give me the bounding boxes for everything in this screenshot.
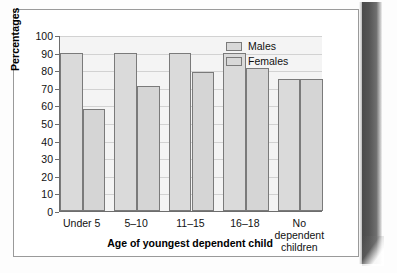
chart-legend: Males Females xyxy=(226,40,312,70)
y-axis-tick-mark xyxy=(55,36,59,37)
y-axis-tick-mark xyxy=(55,194,59,195)
y-axis-tick-label: 40 xyxy=(27,137,53,147)
y-axis-tick-label: 0 xyxy=(27,207,53,217)
y-axis-tick-label: 60 xyxy=(27,101,53,111)
bar-chart: Percentages Age of youngest dependent ch… xyxy=(13,9,359,257)
bar-females-3 xyxy=(246,68,269,211)
legend-label-females: Females xyxy=(248,56,288,67)
y-axis-tick-mark xyxy=(55,142,59,143)
y-axis-tick-label: 10 xyxy=(27,189,53,199)
y-axis-tick-mark xyxy=(55,124,59,125)
legend-item-males: Males xyxy=(226,40,312,53)
page-shadow xyxy=(362,2,382,264)
y-axis-tick-mark xyxy=(55,54,59,55)
x-axis-tick-label: No dependent children xyxy=(267,217,332,253)
bar-females-2 xyxy=(192,72,215,211)
y-axis-tick-label: 30 xyxy=(27,154,53,164)
y-axis-tick-label: 50 xyxy=(27,119,53,129)
y-axis-tick-mark xyxy=(55,71,59,72)
y-axis-tick-label: 100 xyxy=(27,31,53,41)
bar-females-1 xyxy=(137,86,160,211)
bar-males-4 xyxy=(278,79,301,211)
y-axis-tick-label: 90 xyxy=(27,49,53,59)
legend-label-males: Males xyxy=(248,41,276,52)
y-axis-tick-label: 70 xyxy=(27,84,53,94)
legend-swatch-females xyxy=(226,57,242,66)
bar-females-0 xyxy=(83,109,106,211)
gridline xyxy=(60,36,322,37)
y-axis-tick-mark xyxy=(55,106,59,107)
y-axis-tick-label: 80 xyxy=(27,66,53,76)
legend-swatch-males xyxy=(226,42,242,51)
y-axis-tick-mark xyxy=(55,212,59,213)
y-axis-tick-label: 20 xyxy=(27,172,53,182)
bar-males-0 xyxy=(60,53,83,211)
bar-males-1 xyxy=(114,53,137,211)
bar-females-4 xyxy=(300,79,323,211)
bar-males-3 xyxy=(223,53,246,211)
legend-item-females: Females xyxy=(226,55,312,68)
y-axis-tick-mark xyxy=(55,89,59,90)
bar-males-2 xyxy=(169,53,192,211)
y-axis-title: Percentages xyxy=(9,7,21,71)
scanned-page: Percentages Age of youngest dependent ch… xyxy=(0,0,397,273)
y-axis-tick-mark xyxy=(55,159,59,160)
page-shadow-taper xyxy=(362,236,384,266)
y-axis-tick-mark xyxy=(55,177,59,178)
